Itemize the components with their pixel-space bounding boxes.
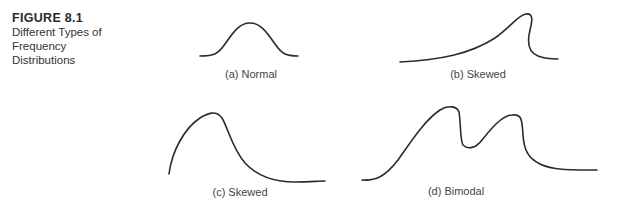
panel-label-a: (a) Normal (225, 68, 277, 80)
distribution-curves (0, 0, 628, 207)
skewed-right-curve (169, 113, 325, 182)
skewed-left-curve (400, 14, 558, 62)
panel-label-d: (d) Bimodal (428, 185, 484, 197)
normal-curve (200, 23, 298, 56)
panel-label-b: (b) Skewed (450, 68, 506, 80)
bimodal-curve (362, 107, 597, 180)
panel-label-c: (c) Skewed (212, 186, 267, 198)
